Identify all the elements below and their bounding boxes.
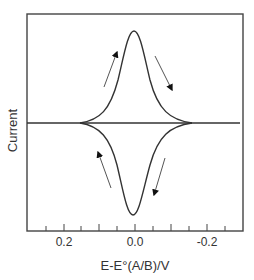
arrow-down-left-icon — [154, 158, 165, 195]
x-tick-label: -0.2 — [187, 235, 227, 249]
arrow-down-right-icon — [155, 56, 172, 90]
y-axis-label: Current — [5, 91, 20, 171]
arrow-up-left-icon — [98, 152, 111, 188]
x-axis-ticks — [46, 224, 225, 231]
arrow-up-right-icon — [104, 52, 117, 87]
x-tick-label: 0.2 — [44, 235, 84, 249]
x-axis-label: E-E°(A/B)/V — [0, 258, 254, 273]
cathodic-peak-curve — [80, 123, 192, 215]
anodic-peak-curve — [80, 31, 192, 123]
x-tick-label: 0.0 — [115, 235, 155, 249]
